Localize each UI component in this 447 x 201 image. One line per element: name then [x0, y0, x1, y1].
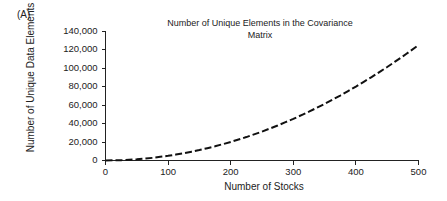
y-tick-label-group: 020,00040,00060,00080,000100,000120,0001… [63, 25, 97, 165]
x-tick-mark-group [106, 161, 419, 165]
y-tick-label: 120,000 [63, 43, 97, 54]
x-tick-label: 100 [160, 166, 176, 177]
x-tick-label: 200 [223, 166, 239, 177]
x-tick-label: 300 [285, 166, 301, 177]
y-tick-label: 0 [92, 154, 97, 165]
x-tick-label: 0 [103, 166, 108, 177]
y-tick-label: 100,000 [63, 62, 97, 73]
y-tick-label: 60,000 [68, 99, 97, 110]
figure-panel-a: (A) Number of Unique Data Elements Numbe… [0, 0, 447, 201]
y-tick-label: 140,000 [63, 25, 97, 36]
x-axis-title: Number of Stocks [110, 181, 418, 193]
data-series-line [106, 45, 419, 160]
x-tick-label: 400 [348, 166, 364, 177]
x-tick-label: 500 [411, 166, 427, 177]
y-tick-mark-group [102, 32, 106, 161]
plot-area: 020,00040,00060,00080,000100,000120,0001… [0, 0, 447, 201]
y-tick-label: 40,000 [68, 117, 97, 128]
y-tick-label: 20,000 [68, 136, 97, 147]
x-tick-label-group: 0100200300400500 [103, 166, 427, 177]
y-tick-label: 80,000 [68, 80, 97, 91]
